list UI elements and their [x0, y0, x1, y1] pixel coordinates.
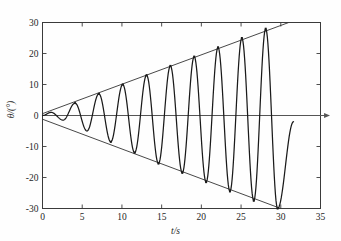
- x-tick-label: 0: [40, 212, 45, 222]
- x-tick-label: 25: [236, 212, 246, 222]
- envelope-touch-marker: [229, 190, 231, 192]
- damped-oscillation-plot: 05101520253035-30-20-100102030t/sθ/(°): [0, 0, 341, 241]
- x-tick-label: 30: [276, 212, 286, 222]
- envelope-touch-marker: [169, 65, 171, 67]
- y-tick-label: 20: [29, 49, 39, 59]
- envelope-touch-marker: [205, 181, 207, 183]
- x-tick-label: 10: [117, 212, 127, 222]
- y-tick-label: 10: [29, 80, 39, 90]
- envelope-touch-marker: [110, 141, 112, 143]
- x-axis-title: t/s: [171, 226, 180, 236]
- envelope-touch-marker: [157, 163, 159, 165]
- x-tick-label: 35: [316, 212, 326, 222]
- y-tick-label: -20: [26, 173, 39, 183]
- envelope-touch-marker: [277, 208, 279, 210]
- envelope-touch-marker: [217, 46, 219, 48]
- chart-figure: 05101520253035-30-20-100102030t/sθ/(°): [0, 0, 341, 241]
- x-tick-label: 20: [197, 212, 207, 222]
- y-tick-label: -10: [26, 142, 39, 152]
- envelope-touch-marker: [146, 74, 148, 76]
- envelope-touch-marker: [253, 200, 255, 202]
- x-tick-label: 15: [157, 212, 167, 222]
- envelope-touch-marker: [193, 56, 195, 58]
- y-axis-title: θ/(°): [6, 101, 17, 118]
- envelope-touch-marker: [181, 172, 183, 174]
- y-tick-label: -30: [26, 204, 39, 214]
- envelope-touch-marker: [122, 84, 124, 86]
- envelope-touch-marker: [74, 102, 76, 104]
- zero-axis-arrowhead: [324, 113, 330, 118]
- y-tick-label: 30: [29, 18, 39, 28]
- envelope-touch-marker: [241, 37, 243, 39]
- x-tick-label: 5: [80, 212, 85, 222]
- envelope-touch-marker: [98, 93, 100, 95]
- envelope-touch-marker: [134, 152, 136, 154]
- y-tick-label: 0: [34, 111, 39, 121]
- envelope-touch-marker: [265, 28, 267, 30]
